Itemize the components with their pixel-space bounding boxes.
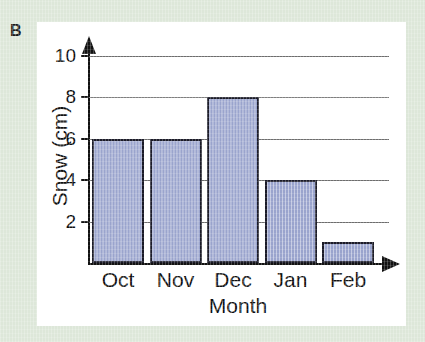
bar	[265, 180, 317, 263]
plot-area: 246810 OctNovDecJanFeb Month Snow (cm)	[37, 22, 406, 326]
bar	[92, 139, 144, 264]
y-axis-arrowhead-icon	[82, 36, 96, 54]
y-axis-tick	[81, 55, 89, 57]
chart-card: 246810 OctNovDecJanFeb Month Snow (cm)	[37, 22, 406, 326]
y-axis-tick	[81, 96, 89, 98]
bar	[150, 139, 202, 264]
bar	[207, 97, 259, 263]
y-axis-title: Snow (cm)	[48, 61, 72, 251]
panel-letter-label: B	[10, 22, 22, 40]
x-tick-label: Nov	[146, 268, 206, 292]
bar	[322, 242, 374, 263]
x-tick-label: Oct	[88, 268, 148, 292]
x-axis-title: Month	[88, 294, 388, 318]
x-tick-label: Jan	[261, 268, 321, 292]
y-axis-tick	[81, 138, 89, 140]
x-tick-label: Feb	[318, 268, 378, 292]
figure-container: B 246810 OctNovDecJanFeb Month Snow (cm)	[0, 0, 425, 342]
y-axis-tick	[81, 221, 89, 223]
x-tick-label: Dec	[203, 268, 263, 292]
x-axis-line	[88, 263, 384, 265]
x-axis-arrowhead-icon	[382, 256, 400, 272]
gridline	[89, 56, 389, 57]
y-axis-line	[88, 52, 90, 265]
y-axis-tick	[81, 179, 89, 181]
